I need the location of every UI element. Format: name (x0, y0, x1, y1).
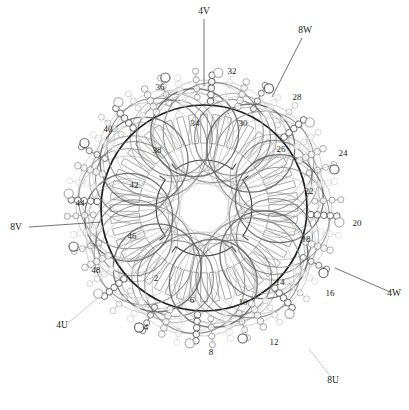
conductor-circle (193, 331, 200, 338)
conductor-circle (194, 94, 200, 100)
conductor-circle (301, 139, 307, 145)
conductor-circle (88, 243, 94, 249)
conductor-terminal-node (264, 84, 273, 93)
conductor-circle (163, 92, 169, 98)
conductor-circle (312, 278, 319, 285)
conductor-circle (318, 181, 325, 188)
conductor-circle (306, 170, 312, 176)
conductor-circle (118, 131, 124, 137)
conductor-circle (94, 152, 100, 158)
conductor-circle (239, 91, 246, 98)
phase-leader-line (68, 297, 99, 323)
conductor-circle (227, 79, 233, 85)
conductor-circle (165, 312, 172, 319)
conductor-circle (267, 305, 273, 311)
conductor-circle (193, 68, 199, 74)
conductor-circle (327, 231, 333, 237)
conductor-circle (177, 87, 184, 94)
conductor-circle (223, 96, 229, 102)
conductor-terminal-node (135, 323, 144, 332)
conductor-circle (262, 298, 268, 304)
conductor-terminal-node (185, 339, 194, 348)
conductor-circle (102, 156, 108, 162)
conductor-terminal-node (64, 189, 73, 198)
conductor-circle (300, 255, 306, 261)
conductor-circle (331, 178, 338, 185)
conductor-circle (179, 314, 185, 320)
conductor-circle (194, 86, 200, 92)
bore-outline (156, 160, 252, 256)
conductor-circle (94, 198, 101, 205)
conductor-terminal-node (319, 268, 328, 277)
conductor-circle (101, 271, 107, 277)
stator-slot (234, 125, 254, 153)
slot-number-label-26: 26 (277, 144, 287, 154)
conductor-circle (77, 230, 84, 237)
slot-number-label-46: 46 (128, 231, 138, 241)
conductor-circle (280, 115, 286, 121)
conductor-circle (277, 319, 283, 325)
slot-number-label-12: 12 (270, 337, 279, 347)
diagram-canvas: 2468101214161820222426283032343638404244… (0, 0, 409, 410)
conductor-circle (125, 91, 131, 97)
conductor-circle (193, 77, 199, 83)
slot-number-label-42: 42 (130, 180, 139, 190)
conductor-circle (208, 91, 215, 98)
conductor-terminal-node (114, 98, 123, 107)
slot-number-label-40: 40 (104, 124, 114, 134)
stator-slot (263, 230, 292, 247)
conductor-circle (96, 240, 102, 246)
conductor-circle (338, 197, 344, 203)
phase-lead-label-4u: 4U (56, 320, 68, 330)
conductor-circle (167, 306, 174, 313)
slot-number-label-10: 10 (239, 297, 249, 307)
conductor-circle (254, 98, 260, 104)
conductor-circle (272, 312, 278, 318)
endturn-arcs-back-layer (76, 80, 332, 336)
endturn-loop (225, 214, 305, 294)
conductor-circle (297, 290, 303, 296)
conductor-circle (304, 296, 310, 302)
conductor-circle (64, 213, 70, 219)
conductor-circle (320, 198, 326, 204)
conductor-circle (75, 163, 82, 170)
slot-number-label-24: 24 (339, 148, 349, 158)
conductor-circle (73, 213, 79, 219)
conductor-circle (237, 97, 244, 104)
conductor-circle (94, 276, 100, 282)
phase-lead-label-8v: 8V (10, 222, 22, 232)
conductor-circle (225, 88, 231, 94)
conductor-circle (148, 312, 154, 318)
conductor-circle (90, 212, 96, 218)
conductor-circle (87, 167, 94, 174)
conductor-circle (93, 169, 100, 176)
conductor-circle (227, 335, 234, 342)
conductor-circle (98, 114, 104, 120)
slot-number-label-6: 6 (190, 295, 195, 305)
conductor-circle (310, 227, 316, 233)
conductor-terminal-node (94, 289, 103, 298)
stator-slot (165, 267, 182, 296)
slot-number-label-28: 28 (293, 92, 303, 102)
conductor-circle (108, 266, 114, 272)
stator-winding-svg: 2468101214161820222426283032343638404244… (0, 0, 409, 410)
phase-lead-label-8u: 8U (327, 375, 339, 385)
stator-slot (259, 238, 287, 258)
slot-number-label-20: 20 (353, 218, 363, 228)
conductor-circle (67, 178, 73, 184)
conductor-terminal-node (238, 334, 247, 343)
conductor-circle (179, 100, 186, 107)
conductor-circle (166, 100, 172, 106)
conductor-circle (315, 243, 322, 250)
conductor-circle (323, 164, 329, 170)
conductor-circle (70, 231, 77, 238)
conductor-circle (208, 78, 215, 85)
conductor-circle (308, 258, 314, 264)
conductor-terminal-node (330, 165, 339, 174)
conductor-circle (312, 198, 318, 204)
conductor-circle (329, 197, 335, 203)
slot-number-label-30: 30 (239, 118, 249, 128)
slot-number-label-14: 14 (276, 277, 286, 287)
phase-leader-line (335, 268, 390, 292)
conductor-terminal-node (285, 309, 294, 318)
